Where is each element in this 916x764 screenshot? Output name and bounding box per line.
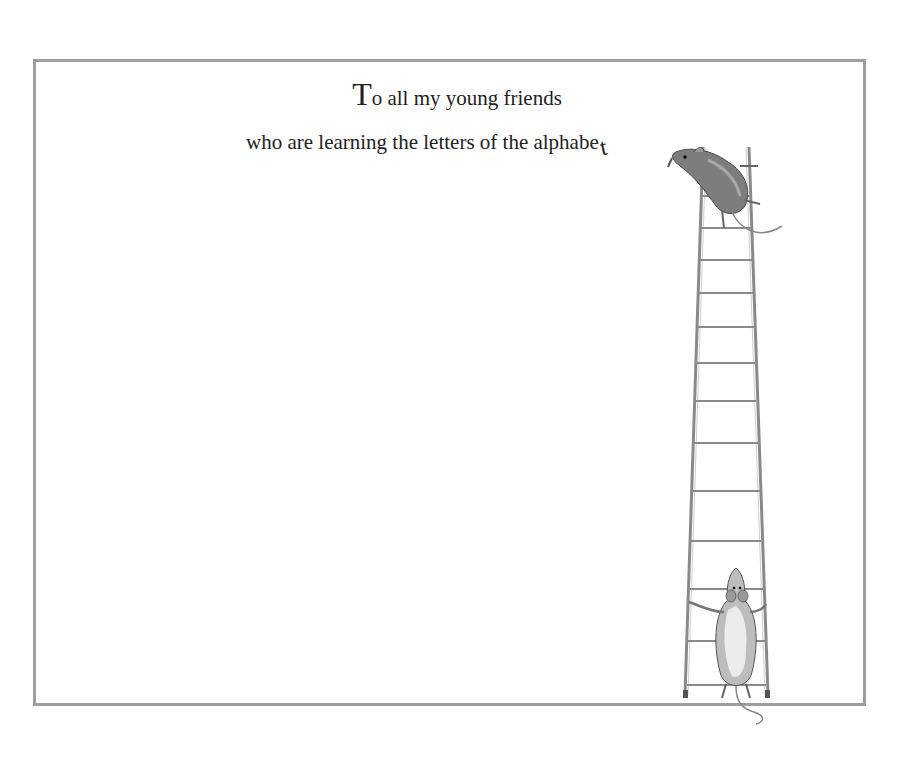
ladder-illustration [0,0,916,764]
bottom-mouse-icon [689,568,766,724]
top-mouse-icon [668,148,782,233]
